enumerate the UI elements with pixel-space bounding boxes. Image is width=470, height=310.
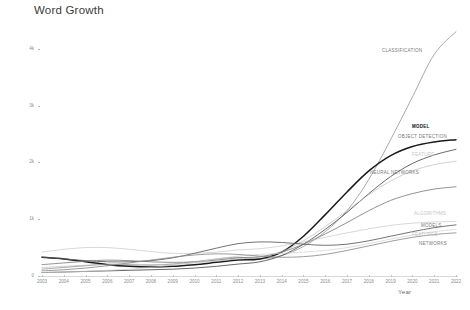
y-tick-mark <box>38 219 40 220</box>
x-tick-label: 2014 <box>271 279 293 284</box>
x-tick-label: 2013 <box>249 279 271 284</box>
x-tick-label: 2021 <box>423 279 445 284</box>
y-tick-label: 2k <box>20 159 34 164</box>
series-label: CLASSIFICATION <box>382 48 422 53</box>
y-tick-label: 3k <box>20 103 34 108</box>
y-tick-mark <box>38 162 40 163</box>
y-tick-mark <box>38 106 40 107</box>
series-label: MODEL <box>412 124 430 129</box>
x-tick-label: 2020 <box>401 279 423 284</box>
x-tick-label: 2018 <box>358 279 380 284</box>
x-tick-label: 2011 <box>205 279 227 284</box>
chart-title: Word Growth <box>34 4 104 16</box>
series-line <box>42 187 456 265</box>
word-growth-chart: Word Growth Annual occurrences (loess sm… <box>0 0 470 310</box>
x-tick-label: 2008 <box>140 279 162 284</box>
y-tick-label: 1k <box>20 216 34 221</box>
series-label: FEATURE <box>412 152 434 157</box>
x-tick-label: 2006 <box>96 279 118 284</box>
y-tick-mark <box>38 49 40 50</box>
x-tick-label: 2003 <box>31 279 53 284</box>
x-axis-baseline <box>40 276 458 277</box>
series-label: MODELS <box>421 223 442 228</box>
series-label: ALGORITHMS <box>414 211 446 216</box>
series-label: NEURAL NETWORKS <box>370 170 419 175</box>
x-tick-label: 2019 <box>380 279 402 284</box>
y-tick-label: 0 <box>20 273 34 278</box>
series-line <box>42 149 456 272</box>
x-tick-label: 2016 <box>314 279 336 284</box>
series-label: NETWORKS <box>419 241 447 246</box>
series-line <box>42 32 456 270</box>
x-tick-label: 2017 <box>336 279 358 284</box>
series-label: FEATURES <box>412 232 438 237</box>
x-tick-label: 2007 <box>118 279 140 284</box>
x-axis-label: Year <box>398 288 411 295</box>
series-line <box>42 225 456 262</box>
x-tick-label: 2022 <box>445 279 467 284</box>
x-tick-mark <box>456 275 457 277</box>
x-tick-label: 2015 <box>292 279 314 284</box>
series-line <box>42 161 456 267</box>
x-tick-label: 2010 <box>184 279 206 284</box>
plot-area <box>42 26 456 276</box>
series-line <box>42 221 456 253</box>
x-tick-label: 2009 <box>162 279 184 284</box>
x-tick-label: 2004 <box>53 279 75 284</box>
series-label: OBJECT DETECTION <box>398 134 447 139</box>
x-tick-label: 2005 <box>75 279 97 284</box>
y-tick-label: 4k <box>20 46 34 51</box>
series-lines <box>42 26 456 276</box>
x-tick-label: 2012 <box>227 279 249 284</box>
